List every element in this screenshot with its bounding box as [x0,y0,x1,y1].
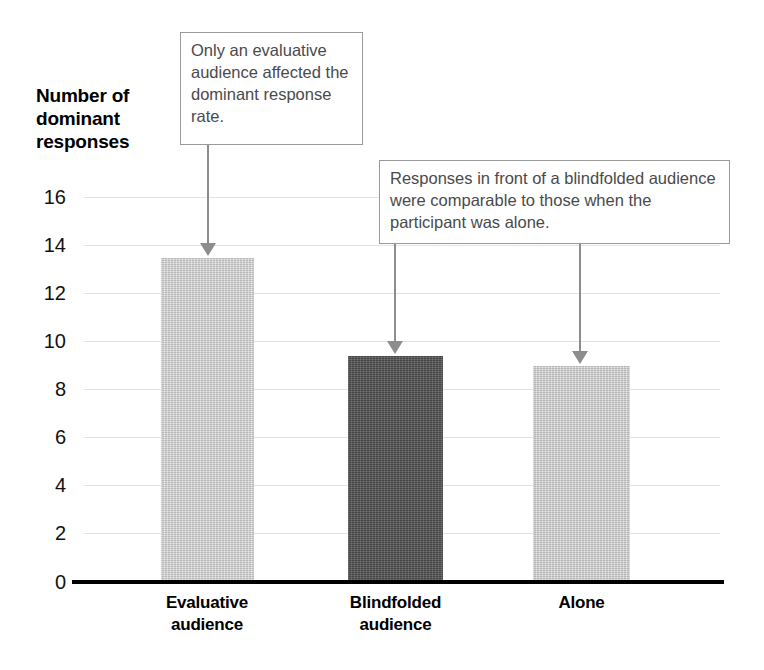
y-axis-tick-labels: 16 14 12 10 8 6 4 2 0 [22,197,66,582]
bar-chart: Number of dominant responses 16 14 12 10… [0,0,764,670]
x-label-line-1: Blindfolded [318,592,473,614]
x-label-evaluative-audience: Evaluative audience [131,592,283,636]
y-tick-0: 0 [22,572,66,592]
bar-texture [533,366,630,582]
x-axis-baseline [72,580,724,584]
bar-evaluative-audience [161,258,254,582]
x-label-blindfolded-audience: Blindfolded audience [318,592,473,636]
y-axis-title-line-2: dominant [36,107,186,130]
annotation-arrow-line-2 [394,244,396,343]
x-label-line-1: Alone [504,592,659,614]
y-axis-title: Number of dominant responses [36,84,186,154]
y-tick-4: 4 [22,475,66,495]
plot-area [84,197,720,582]
x-label-line-2: audience [318,614,473,636]
y-tick-2: 2 [22,523,66,543]
annotation-box-blindfolded-alone: Responses in front of a blindfolded audi… [379,160,730,244]
annotation-arrowhead-2 [387,341,403,354]
gridline-14 [84,245,720,246]
annotation-arrowhead-1 [200,243,216,256]
bar-texture [161,258,254,582]
bar-alone [533,366,630,582]
y-axis-title-line-1: Number of [36,84,186,107]
y-axis-title-line-3: responses [36,130,186,153]
y-tick-12: 12 [22,283,66,303]
annotation-arrow-line-3 [579,244,581,353]
y-tick-14: 14 [22,235,66,255]
x-label-line-2: audience [131,614,283,636]
annotation-box-evaluative: Only an evaluative audience affected the… [180,32,363,145]
y-tick-8: 8 [22,379,66,399]
annotation-arrowhead-3 [572,351,588,364]
bar-texture [348,356,443,582]
y-tick-16: 16 [22,187,66,207]
y-tick-10: 10 [22,331,66,351]
bar-blindfolded-audience [348,356,443,582]
x-label-line-1: Evaluative [131,592,283,614]
x-label-alone: Alone [504,592,659,614]
y-tick-6: 6 [22,427,66,447]
annotation-arrow-line-1 [207,145,209,245]
